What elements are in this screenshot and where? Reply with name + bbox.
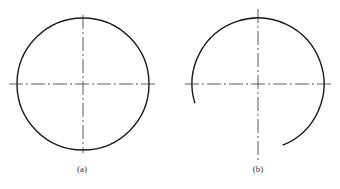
figure-label-a: (a)	[77, 164, 87, 174]
figure-label-b: (b)	[253, 164, 264, 174]
figure-b	[185, 9, 333, 160]
figure-a	[9, 15, 157, 153]
diagram-canvas	[0, 0, 340, 189]
